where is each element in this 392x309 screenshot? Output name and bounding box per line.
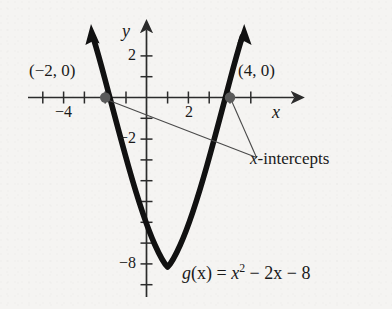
left-intercept-label: (−2, 0) (29, 62, 75, 79)
x-intercept-dot-right (225, 92, 235, 102)
equation-exponent: 2 (239, 261, 245, 275)
x-intercepts-callout: x-intercepts (250, 150, 329, 167)
x-intercepts-callout-italic: x (250, 149, 258, 168)
equation-term2: − 2x (250, 263, 283, 283)
equation-term3: − 8 (287, 263, 311, 283)
equation-argument: (x) (191, 263, 212, 283)
figure-canvas: y x 2 −2 −8 −4 2 (−2, 0) (4, 0) x-interc… (0, 0, 392, 309)
x-axis-label: x (272, 103, 280, 121)
x-tick-label-minus-4: −4 (55, 104, 72, 120)
curve-right-arrowhead (237, 24, 251, 45)
right-intercept-label: (4, 0) (238, 62, 275, 79)
parabola-curve (93, 37, 242, 267)
x-intercept-dot-left (100, 92, 110, 102)
y-axis-label: y (122, 22, 130, 40)
x-intercepts-callout-rest: -intercepts (258, 149, 330, 168)
y-tick-label-2: 2 (128, 47, 136, 63)
equation-base: x (231, 263, 239, 283)
equation-function-name: g (182, 263, 191, 283)
x-tick-label-2: 2 (185, 104, 193, 120)
equation-equals: = (217, 263, 227, 283)
y-tick-label-minus-8: −8 (119, 255, 136, 271)
equation-label: g(x) = x2 − 2x − 8 (182, 264, 310, 282)
y-tick-label-minus-2: −2 (119, 130, 136, 146)
